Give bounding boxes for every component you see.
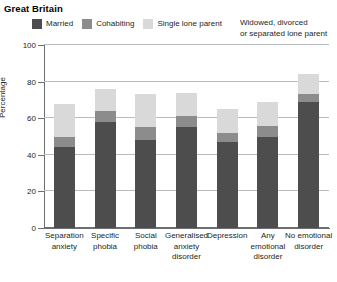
bar-segment-cohabiting: [176, 116, 197, 127]
y-axis-labels: 020406080100: [0, 0, 36, 282]
y-tick-0: [38, 228, 44, 229]
gridline-100: [44, 44, 329, 45]
y-tick-100: [38, 45, 44, 46]
bar-segment-single-lone-parent: [257, 102, 278, 126]
chart-legend: Married Cohabiting Single lone parent: [32, 19, 231, 29]
y-tick-20: [38, 191, 44, 192]
legend-item-single-lone-parent: Single lone parent: [143, 19, 222, 29]
x-axis-label-line: No emotional: [282, 231, 335, 242]
bar-segment-married: [54, 147, 75, 228]
x-axis-labels: SeparationanxietySpecificphobiaSocialpho…: [44, 231, 330, 279]
y-tick-label-100: 100: [23, 41, 36, 50]
y-tick-label-0: 0: [32, 224, 36, 233]
gridline-80: [44, 81, 329, 82]
bar-segment-single-lone-parent: [54, 104, 75, 137]
bar-segment-married: [257, 137, 278, 229]
bar-segment-cohabiting: [135, 127, 156, 140]
legend-item-cohabiting: Cohabiting: [82, 19, 134, 29]
legend-label-single-lone-parent: Single lone parent: [157, 19, 222, 29]
y-tick-60: [38, 118, 44, 119]
bar-separation-anxiety: [54, 104, 75, 228]
x-axis-label-6: No emotionaldisorder: [282, 231, 335, 252]
legend-swatch-cohabiting: [82, 19, 92, 29]
bar-segment-married: [95, 122, 116, 228]
bar-specific-phobia: [95, 89, 116, 228]
bar-segment-married: [298, 102, 319, 228]
bar-generalised-anxiety-disorder: [176, 93, 197, 228]
bar-segment-single-lone-parent: [95, 89, 116, 111]
legend-item-married: Married: [32, 19, 73, 29]
bar-segment-married: [135, 140, 156, 228]
y-tick-label-40: 40: [27, 150, 36, 159]
legend-label-widowed-line1: Widowed, divorced: [240, 18, 327, 29]
bar-any-emotional-disorder: [257, 102, 278, 228]
y-tick-label-60: 60: [27, 114, 36, 123]
legend-label-married: Married: [46, 19, 73, 29]
bar-segment-single-lone-parent: [217, 109, 238, 133]
x-axis-line: [44, 228, 330, 229]
legend-swatch-single-lone-parent: [143, 19, 153, 29]
legend-item-widowed-divorced-separated: Widowed, divorced or separated lone pare…: [240, 18, 327, 39]
x-axis-label-line: disorder: [282, 242, 335, 253]
bar-segment-cohabiting: [54, 137, 75, 148]
legend-label-cohabiting: Cohabiting: [96, 19, 134, 29]
bar-segment-married: [176, 127, 197, 228]
plot-area: [44, 45, 329, 228]
y-axis-title: Percentage: [0, 77, 7, 118]
bar-depression: [217, 109, 238, 228]
bar-segment-cohabiting: [298, 94, 319, 101]
y-tick-80: [38, 82, 44, 83]
bar-segment-single-lone-parent: [135, 94, 156, 127]
x-axis-label-line: disorder: [242, 252, 295, 263]
y-tick-label-80: 80: [27, 77, 36, 86]
bar-social-phobia: [135, 94, 156, 228]
bar-segment-single-lone-parent: [176, 93, 197, 117]
y-tick-40: [38, 155, 44, 156]
legend-label-widowed-line2: or separated lone parent: [240, 29, 327, 40]
x-axis-label-line: disorder: [160, 252, 213, 263]
x-axis-label-line: anxiety: [160, 242, 213, 253]
chart-container: Great Britain Married Cohabiting Single …: [0, 0, 337, 282]
bar-segment-cohabiting: [95, 111, 116, 122]
bar-segment-cohabiting: [217, 133, 238, 142]
bar-segment-married: [217, 142, 238, 228]
bar-no-emotional-disorder: [298, 74, 319, 228]
bar-segment-cohabiting: [257, 126, 278, 137]
y-tick-label-20: 20: [27, 187, 36, 196]
bar-segment-single-lone-parent: [298, 74, 319, 94]
